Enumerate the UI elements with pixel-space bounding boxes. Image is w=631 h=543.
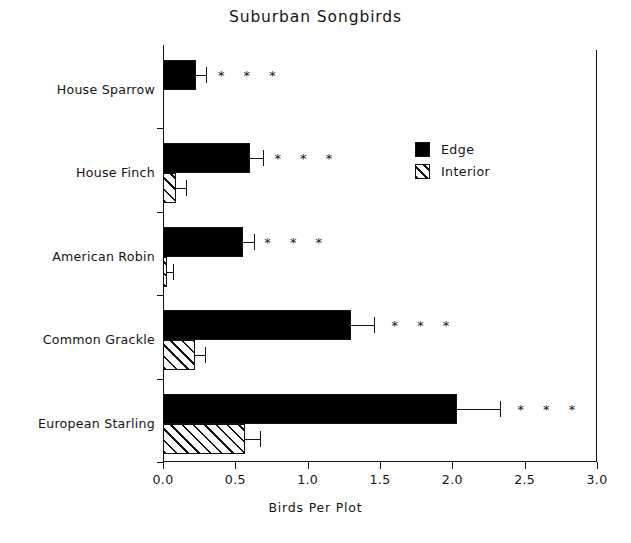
significance-annotation: * * *: [274, 152, 339, 165]
bar-edge: [163, 60, 196, 90]
x-axis-tick: [597, 462, 598, 469]
error-bar-cap-edge: [254, 234, 255, 250]
error-bar-interior: [195, 355, 205, 356]
bar-interior: [163, 340, 195, 370]
x-axis-tick: [308, 462, 309, 469]
x-axis-tick: [235, 462, 236, 469]
legend-swatch-hatch-icon: [415, 164, 430, 179]
legend-item-interior: Interior: [415, 160, 490, 182]
top-spine-mask: [164, 44, 597, 50]
x-axis-tick: [380, 462, 381, 469]
significance-annotation: * * *: [392, 319, 457, 332]
y-axis-category-label: House Sparrow: [5, 82, 155, 97]
legend-item-edge: Edge: [415, 138, 490, 160]
x-axis-label: Birds Per Plot: [0, 500, 631, 515]
bar-edge: [163, 310, 351, 340]
x-axis-tick-label: 1.0: [278, 472, 338, 487]
chart-figure: Suburban Songbirds House Sparrow* * *Hou…: [0, 0, 631, 543]
bar-edge: [163, 143, 250, 173]
x-axis-tick: [525, 462, 526, 469]
y-axis-tick: [157, 295, 163, 296]
error-bar-edge: [196, 75, 206, 76]
y-axis-category-label: European Starling: [5, 416, 155, 431]
y-axis-category-label: Common Grackle: [5, 332, 155, 347]
x-axis-tick-label: 3.0: [567, 472, 627, 487]
x-axis-tick-label: 0.5: [205, 472, 265, 487]
x-axis-tick-label: 0.0: [133, 472, 193, 487]
error-bar-interior: [245, 439, 259, 440]
error-bar-cap-interior: [260, 431, 261, 447]
x-axis-tick-label: 2.0: [422, 472, 482, 487]
error-bar-edge: [351, 325, 374, 326]
y-axis-category-label: House Finch: [5, 165, 155, 180]
significance-annotation: * * *: [218, 69, 283, 82]
error-bar-cap-edge: [263, 150, 264, 166]
x-axis-tick: [163, 462, 164, 469]
bar-edge: [163, 394, 457, 424]
legend-swatch-solid-icon: [415, 142, 430, 157]
significance-annotation: * * *: [517, 403, 582, 416]
error-bar-cap-interior: [186, 180, 187, 196]
significance-annotation: * * *: [264, 236, 329, 249]
error-bar-cap-edge: [374, 317, 375, 333]
chart-legend: Edge Interior: [415, 138, 490, 182]
bar-interior: [163, 424, 245, 454]
y-axis-category-label: American Robin: [5, 249, 155, 264]
chart-title: Suburban Songbirds: [0, 8, 631, 26]
y-axis-tick: [157, 212, 163, 213]
legend-label-interior: Interior: [441, 164, 490, 179]
error-bar-edge: [243, 242, 255, 243]
x-axis-tick-label: 1.5: [350, 472, 410, 487]
error-bar-cap-edge: [500, 401, 501, 417]
y-axis-tick: [157, 128, 163, 129]
bar-edge: [163, 227, 243, 257]
error-bar-edge: [250, 158, 263, 159]
x-axis-tick-label: 2.5: [495, 472, 555, 487]
error-bar-interior: [176, 188, 186, 189]
x-axis-tick: [452, 462, 453, 469]
error-bar-cap-edge: [206, 67, 207, 83]
y-axis-tick: [157, 379, 163, 380]
error-bar-edge: [457, 409, 500, 410]
legend-label-edge: Edge: [441, 142, 474, 157]
bar-interior: [163, 173, 176, 203]
error-bar-cap-interior: [173, 264, 174, 280]
error-bar-cap-interior: [205, 347, 206, 363]
